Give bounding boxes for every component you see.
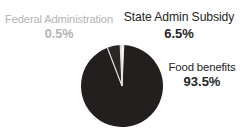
pie-slice-separator	[122, 45, 123, 86]
slice-label-food-benefits-name: Food benefits	[163, 61, 241, 74]
slice-label-federal-administration: Federal Administration 0.5%	[3, 13, 115, 41]
slice-label-food-benefits-value: 93.5%	[163, 75, 241, 90]
slice-label-federal-administration-name: Federal Administration	[3, 13, 115, 26]
slice-label-state-admin-subsidy-value: 6.5%	[120, 27, 238, 42]
slice-label-food-benefits: Food benefits 93.5%	[163, 61, 241, 89]
pie-chart-figure: Federal Administration 0.5% State Admin …	[0, 0, 243, 137]
slice-label-state-admin-subsidy-name: State Admin Subsidy	[120, 11, 238, 25]
slice-label-state-admin-subsidy: State Admin Subsidy 6.5%	[120, 11, 238, 41]
slice-label-federal-administration-value: 0.5%	[3, 27, 115, 41]
